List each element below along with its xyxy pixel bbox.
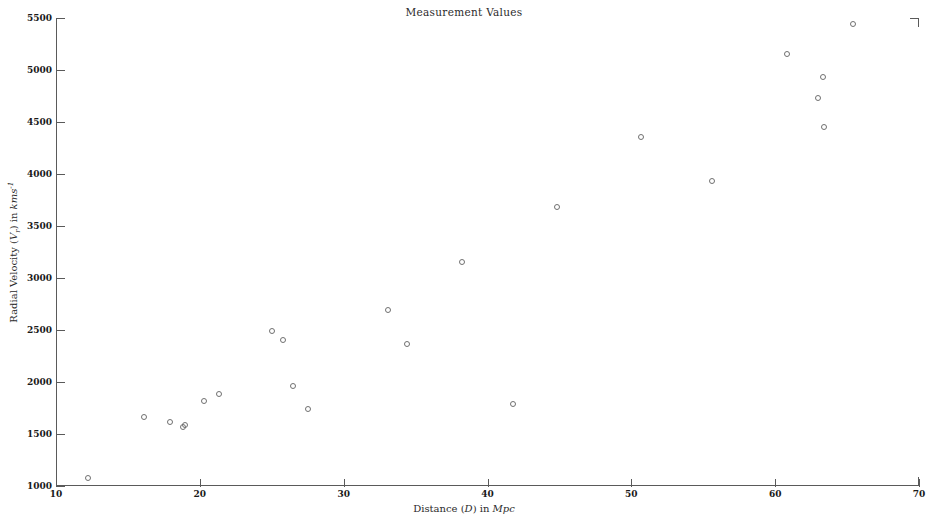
y-axis-tick-label: 4000: [27, 169, 52, 179]
chart-title: Measurement Values: [0, 6, 928, 18]
x-axis-tick-mark: [775, 479, 776, 487]
plot-area: [56, 18, 919, 486]
x-axis-title: Distance (D) in Mpc: [0, 503, 928, 514]
data-point: [404, 341, 410, 347]
x-axis-tick-mark: [56, 479, 57, 487]
data-point: [554, 204, 560, 210]
y-axis-tick-mark: [57, 278, 65, 279]
data-point: [141, 414, 147, 420]
y-axis-tick-label: 2500: [27, 325, 52, 335]
y-axis-title-variable-subscript: r: [13, 229, 22, 232]
y-axis-tick-mark: [57, 18, 65, 19]
x-axis-tick-mark: [488, 479, 489, 487]
y-axis-title-lead: Radial Velocity (: [8, 240, 19, 323]
y-axis-tick-label: 1000: [27, 481, 52, 491]
y-axis-title-mid: ) in: [8, 209, 19, 229]
x-axis-title-unit: Mpc: [493, 503, 515, 514]
data-point: [459, 259, 465, 265]
y-axis-tick-mark: [57, 70, 65, 71]
y-axis-tick-label: 3000: [27, 273, 52, 283]
x-axis-tick-label: 50: [625, 489, 638, 499]
y-axis-tick-mark: [57, 486, 65, 487]
y-axis-tick-mark: [57, 174, 65, 175]
data-point: [820, 74, 826, 80]
y-axis-title-variable: V: [8, 233, 19, 240]
data-point: [167, 419, 173, 425]
y-axis-tick-mark: [57, 382, 65, 383]
x-axis-tick-label: 60: [769, 489, 782, 499]
x-axis-tick-mark: [200, 479, 201, 487]
y-axis-tick-mark: [57, 434, 65, 435]
x-axis-title-lead: Distance (: [413, 503, 464, 514]
y-axis-tick-label: 3500: [27, 221, 52, 231]
scatter-plot-figure: Measurement Values 100015002000250030003…: [0, 0, 928, 520]
data-point: [821, 124, 827, 130]
x-axis-tick-label: 40: [481, 489, 494, 499]
y-axis-tick-mark: [57, 226, 65, 227]
data-point: [784, 51, 790, 57]
x-axis-tick-label: 30: [337, 489, 350, 499]
data-point: [850, 21, 856, 27]
data-point: [216, 391, 222, 397]
y-axis-tick-mark: [57, 330, 65, 331]
data-point: [305, 406, 311, 412]
data-point: [85, 475, 91, 481]
y-axis-title-unit-exponent: -1: [6, 182, 15, 189]
x-axis-tick-mark: [919, 479, 920, 487]
y-axis-title: Radial Velocity (Vr) in kms-1: [6, 132, 22, 372]
y-axis-tick-label: 2000: [27, 377, 52, 387]
y-axis-tick-label: 4500: [27, 117, 52, 127]
x-axis-tick-label: 70: [913, 489, 926, 499]
data-point: [709, 178, 715, 184]
data-point: [269, 328, 275, 334]
frame-edge-right-top: [918, 18, 919, 27]
y-axis-tick-label: 5000: [27, 65, 52, 75]
y-axis-tick-mark: [57, 122, 65, 123]
y-axis-tick-label: 5500: [27, 13, 52, 23]
x-axis-tick-label: 20: [194, 489, 207, 499]
x-axis-tick-label: 10: [50, 489, 63, 499]
x-axis-title-variable: D: [465, 503, 473, 514]
y-axis-title-unit: kms: [8, 189, 19, 210]
x-axis-title-mid: ) in: [473, 503, 493, 514]
y-axis-tick-label: 1500: [27, 429, 52, 439]
x-axis-tick-mark: [344, 479, 345, 487]
x-axis-tick-mark: [631, 479, 632, 487]
